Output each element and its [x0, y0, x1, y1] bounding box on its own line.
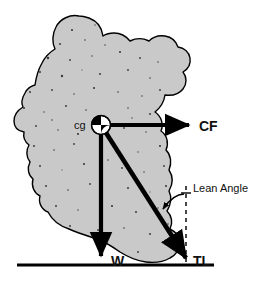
- cg-label: cg: [74, 119, 86, 131]
- force-diagram-canvas: cg CF W TL Lean Angle: [0, 0, 253, 284]
- center-of-gravity-marker: [92, 116, 111, 135]
- lean-angle-diagram: cg CF W TL Lean Angle: [0, 0, 253, 284]
- weight-label: W: [111, 253, 125, 269]
- cf-label: CF: [199, 118, 218, 134]
- tire-load-label: TL: [193, 253, 211, 269]
- lean-angle-label: Lean Angle: [193, 182, 248, 194]
